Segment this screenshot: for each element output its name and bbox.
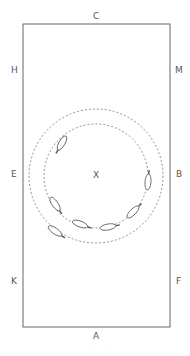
marker-b: B — [176, 170, 182, 179]
caption: · · · · · · · — [0, 346, 190, 353]
horse-icon — [47, 224, 67, 240]
marker-f: F — [176, 277, 181, 286]
horse-icon — [71, 218, 92, 230]
marker-a: A — [93, 332, 99, 341]
horse-icon — [53, 135, 68, 155]
marker-k: K — [11, 277, 17, 286]
marker-c: C — [93, 12, 99, 21]
horse-icon — [48, 196, 64, 216]
horse-icon — [144, 170, 152, 190]
marker-m: M — [175, 66, 183, 75]
marker-e: E — [11, 170, 17, 179]
horse-icon — [100, 222, 121, 231]
marker-h: H — [11, 66, 18, 75]
horse-icon — [125, 201, 143, 219]
marker-x: X — [93, 171, 99, 180]
